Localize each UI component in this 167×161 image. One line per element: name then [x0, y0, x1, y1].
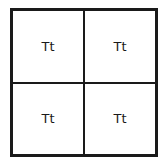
punnett-cell-top-left: Tt	[13, 11, 84, 83]
punnett-cell-top-right: Tt	[84, 11, 155, 83]
punnett-square: Tt Tt Tt Tt	[10, 8, 158, 157]
punnett-cell-bottom-right: Tt	[84, 83, 155, 155]
genotype-label: Tt	[41, 111, 54, 126]
genotype-label: Tt	[113, 39, 126, 54]
genotype-label: Tt	[113, 111, 126, 126]
punnett-cell-bottom-left: Tt	[13, 83, 84, 155]
genotype-label: Tt	[41, 39, 54, 54]
